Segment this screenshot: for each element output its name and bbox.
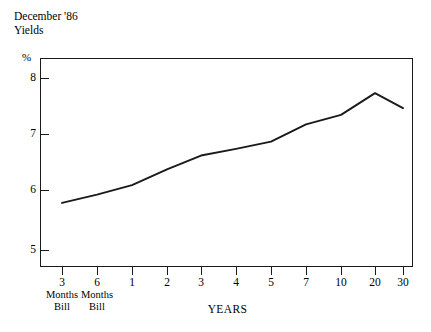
x-tick-sub-1-line-1: Months — [70, 289, 124, 301]
chart-title-line-2: Yields — [14, 23, 78, 37]
x-tick-mark-3 — [167, 267, 168, 275]
x-tick-label-6: 5 — [251, 276, 291, 289]
y-tick-label-7: 7 — [14, 128, 36, 140]
x-tick-mark-1 — [97, 267, 98, 275]
x-tick-mark-6 — [271, 267, 272, 275]
y-tick-mark-7 — [40, 134, 49, 135]
x-tick-label-2: 1 — [112, 276, 152, 289]
x-tick-mark-10 — [403, 267, 404, 275]
x-tick-mark-5 — [236, 267, 237, 275]
x-tick-mark-8 — [341, 267, 342, 275]
x-tick-mark-4 — [201, 267, 202, 275]
x-tick-label-10: 30 — [383, 276, 423, 289]
x-axis-title: YEARS — [0, 303, 431, 315]
y-tick-label-8: 8 — [14, 72, 36, 84]
y-axis-unit-label: % — [22, 52, 31, 63]
x-tick-mark-0 — [62, 267, 63, 275]
chart-title-line-1: December '86 — [14, 9, 78, 23]
chart-title: December '86 Yields — [14, 9, 78, 37]
y-tick-label-5: 5 — [14, 244, 36, 256]
chart-page: December '86 Yields % 8 7 6 5 3 Months B… — [0, 0, 431, 332]
x-tick-mark-2 — [132, 267, 133, 275]
x-tick-label-5: 4 — [216, 276, 256, 289]
y-tick-mark-6 — [40, 190, 49, 191]
y-tick-mark-8 — [40, 78, 49, 79]
x-tick-label-1: 6 — [77, 276, 117, 289]
x-tick-mark-9 — [375, 267, 376, 275]
x-tick-label-7: 7 — [286, 276, 326, 289]
y-tick-label-6: 6 — [14, 184, 36, 196]
x-tick-label-4: 3 — [181, 276, 221, 289]
x-tick-mark-7 — [306, 267, 307, 275]
y-tick-mark-5 — [40, 250, 49, 251]
yield-curve-line — [40, 58, 413, 267]
x-tick-label-0: 3 — [42, 276, 82, 289]
